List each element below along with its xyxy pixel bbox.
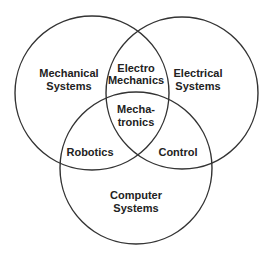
mechanical-systems-label: Mechanical Systems [39, 67, 98, 92]
electrical-systems-label: Electrical Systems [174, 67, 223, 92]
svg-text:Systems: Systems [175, 80, 220, 92]
svg-text:Computer: Computer [110, 189, 163, 201]
electro-mechanics-label: Electro Mechanics [108, 62, 164, 86]
svg-text:tronics: tronics [118, 116, 155, 128]
svg-text:Systems: Systems [46, 80, 91, 92]
svg-text:Mechanical: Mechanical [39, 67, 98, 79]
svg-text:Electrical: Electrical [174, 67, 223, 79]
svg-text:Mechanics: Mechanics [108, 74, 164, 86]
svg-text:Electro: Electro [117, 62, 155, 74]
control-label: Control [158, 146, 197, 158]
svg-text:Control: Control [158, 146, 197, 158]
svg-text:Systems: Systems [113, 202, 158, 214]
mechatronics-label: Mecha- tronics [117, 103, 155, 128]
robotics-label: Robotics [66, 146, 113, 158]
svg-text:Robotics: Robotics [66, 146, 113, 158]
computer-systems-label: Computer Systems [110, 189, 163, 214]
svg-text:Mecha-: Mecha- [117, 103, 155, 115]
venn-diagram: Mechanical Systems Electrical Systems El… [0, 0, 269, 255]
